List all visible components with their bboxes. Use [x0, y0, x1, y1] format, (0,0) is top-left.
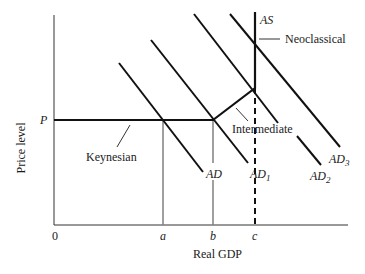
as-curve: [54, 12, 255, 120]
ad1-curve: [151, 40, 248, 163]
ad2-label: AD2: [309, 169, 331, 185]
keynesian-label: Keynesian: [86, 150, 137, 164]
x-tick-b: b: [210, 229, 216, 243]
y-axis-label: Price level: [14, 122, 28, 174]
intermediate-leader: [236, 108, 248, 121]
diagram-canvas: AS Neoclassical Intermediate Keynesian A…: [0, 0, 365, 274]
neoclassical-label: Neoclassical: [285, 32, 346, 46]
origin-label: 0: [52, 229, 58, 243]
ad2-curve-lower: [297, 136, 321, 165]
x-tick-c: c: [252, 229, 258, 243]
keynesian-leader: [117, 125, 130, 147]
ad3-label: AD3: [328, 152, 350, 168]
y-tick-p: P: [39, 113, 48, 127]
as-label: AS: [259, 13, 273, 27]
ad-label: AD: [205, 167, 222, 181]
intermediate-label: Intermediate: [232, 122, 293, 136]
x-tick-a: a: [160, 229, 166, 243]
ad2-curve-upper: [194, 14, 278, 123]
x-axis-label: Real GDP: [193, 247, 242, 261]
ad1-label: AD1: [249, 167, 271, 183]
as-ad-diagram: AS Neoclassical Intermediate Keynesian A…: [0, 0, 365, 274]
